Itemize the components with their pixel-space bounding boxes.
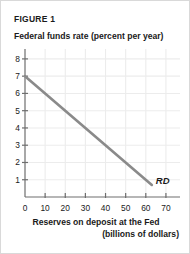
- curve-label-rd: RD: [156, 175, 170, 186]
- y-tick-label: 7: [15, 71, 20, 81]
- plot-area: 12345678 010203040506070 RD: [25, 52, 176, 197]
- x-axis-title-line-2: (billions of dollars): [13, 229, 179, 241]
- x-tick-label: 60: [141, 203, 150, 213]
- x-tick-label: 10: [40, 203, 49, 213]
- y-tick-label: 3: [15, 140, 20, 150]
- x-tick-label: 40: [101, 203, 110, 213]
- x-tick-label: 50: [121, 203, 130, 213]
- x-tick-label: 20: [61, 203, 70, 213]
- x-tick-label: 0: [23, 203, 28, 213]
- y-tick-label: 8: [15, 54, 20, 64]
- x-tick-label: 30: [81, 203, 90, 213]
- data-series: [25, 76, 152, 185]
- y-tick-label: 4: [15, 123, 20, 133]
- y-tick-label: 6: [15, 88, 20, 98]
- figure-panel: FIGURE 1 Federal funds rate (percent per…: [0, 0, 190, 254]
- y-tick-label: 2: [15, 157, 20, 167]
- x-axis-title: Reserves on deposit at the Fed (billions…: [13, 217, 179, 240]
- x-axis-title-line-1: Reserves on deposit at the Fed: [13, 217, 179, 229]
- x-tick-label: 70: [161, 203, 170, 213]
- y-tick-label: 1: [15, 175, 20, 185]
- y-tick-label: 5: [15, 106, 20, 116]
